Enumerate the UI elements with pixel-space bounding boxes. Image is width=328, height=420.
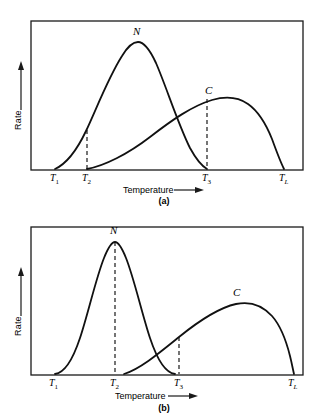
y-axis-arrow-a bbox=[18, 61, 24, 110]
x-tick-tl-a: TL bbox=[279, 172, 288, 186]
curve-label-n-b: N bbox=[110, 224, 117, 236]
x-tick-t1-a: T1 bbox=[50, 172, 59, 186]
x-axis-label-b: Temperature bbox=[115, 391, 166, 401]
y-axis-label-a: Rate bbox=[13, 110, 23, 130]
x-tick-t1-b: T1 bbox=[49, 377, 58, 391]
x-tick-t3-a: T3 bbox=[202, 172, 211, 186]
plot-frame-a bbox=[31, 21, 303, 170]
x-axis-label-a: Temperature bbox=[123, 185, 174, 195]
panel-caption-a: (a) bbox=[0, 196, 328, 206]
plot-frame-b bbox=[31, 227, 303, 375]
x-tick-tl-b: TL bbox=[288, 377, 297, 391]
curve-label-c-b: C bbox=[233, 286, 240, 298]
x-tick-t2-a: T2 bbox=[82, 172, 91, 186]
x-tick-t3-b: T3 bbox=[174, 377, 183, 391]
panel-caption-b: (b) bbox=[0, 403, 328, 413]
x-tick-t2-b: T2 bbox=[110, 377, 119, 391]
figure-panel-a: Rate N C T1 T2 T3 TL Temperature (a) bbox=[0, 0, 328, 210]
y-axis-arrow-b bbox=[18, 267, 24, 316]
curve-c-a bbox=[87, 98, 284, 169]
curve-label-c-a: C bbox=[205, 84, 212, 96]
y-axis-label-b: Rate bbox=[13, 316, 23, 336]
figure-panel-b: Rate N C T1 T2 T3 TL Temperature (b) bbox=[0, 206, 328, 420]
curve-label-n-a: N bbox=[133, 25, 140, 37]
